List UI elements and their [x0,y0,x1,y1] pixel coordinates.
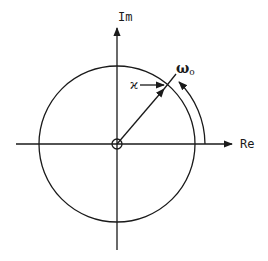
kappa-label: ϰ [130,77,138,92]
angle-arc [179,82,205,144]
real-axis-label: Re [240,137,254,151]
radius-vector [117,89,164,144]
omega-subscript: o [189,67,194,77]
imag-axis-label: Im [118,10,132,24]
omega-symbol: ω [176,60,189,76]
complex-plane-diagram: Im Re ϰ ωo [0,0,268,261]
omega-label: ωo [176,60,195,77]
